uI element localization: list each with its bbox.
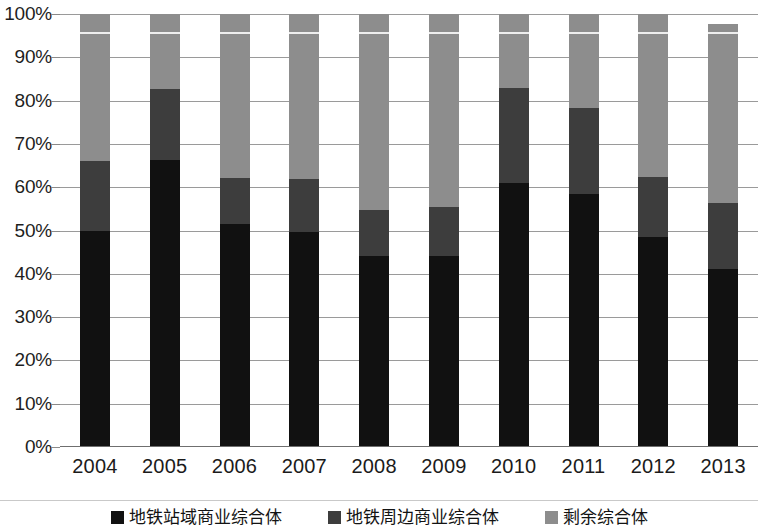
plot-area [60, 14, 758, 447]
y-tick-mark [51, 101, 60, 102]
bar-segment[interactable] [220, 178, 250, 224]
y-tick-label: 70% [0, 134, 52, 153]
bar-group[interactable] [220, 14, 250, 447]
y-tick-label: 20% [0, 350, 52, 369]
y-tick-mark [51, 57, 60, 58]
bar-segment[interactable] [708, 269, 738, 447]
y-tick-mark [51, 447, 60, 448]
x-tick-label: 2011 [544, 455, 624, 477]
bar-segment[interactable] [638, 177, 668, 237]
bar-segment[interactable] [80, 14, 110, 161]
legend-swatch-icon [328, 511, 341, 524]
bar-group[interactable] [638, 14, 668, 447]
bar-segment[interactable] [499, 183, 529, 447]
y-tick-label: 30% [0, 307, 52, 326]
bar-segment[interactable] [80, 231, 110, 448]
bar-segment[interactable] [569, 14, 599, 108]
x-tick-label: 2008 [334, 455, 414, 477]
y-tick-mark [51, 187, 60, 188]
bar-segment[interactable] [150, 160, 180, 447]
bar-segment[interactable] [499, 88, 529, 183]
x-tick-label: 2005 [125, 455, 205, 477]
legend-label: 地铁周边商业综合体 [346, 508, 499, 527]
x-tick-label: 2010 [474, 455, 554, 477]
y-tick-mark [51, 274, 60, 275]
legend-item[interactable]: 地铁周边商业综合体 [328, 508, 499, 527]
y-tick-mark [51, 14, 60, 15]
y-tick-label: 100% [0, 4, 52, 23]
x-tick-label: 2006 [195, 455, 275, 477]
legend-item[interactable]: 地铁站域商业综合体 [111, 508, 282, 527]
bar-segment[interactable] [289, 232, 319, 447]
bar-segment[interactable] [150, 89, 180, 160]
bar-segment[interactable] [359, 210, 389, 256]
y-tick-label: 50% [0, 221, 52, 240]
bar-segment[interactable] [359, 14, 389, 210]
bar-group[interactable] [150, 14, 180, 447]
x-tick-label: 2007 [264, 455, 344, 477]
y-tick-label: 60% [0, 177, 52, 196]
bar-segment[interactable] [638, 14, 668, 177]
bar-segment[interactable] [289, 14, 319, 179]
bar-group[interactable] [429, 14, 459, 447]
x-tick-label: 2012 [613, 455, 693, 477]
x-axis-line [60, 446, 758, 448]
chart-legend: 地铁站域商业综合体地铁周边商业综合体剩余综合体 [0, 500, 758, 530]
bar-segment[interactable] [638, 237, 668, 447]
y-tick-label: 90% [0, 47, 52, 66]
legend-label: 剩余综合体 [563, 508, 648, 527]
bar-segment[interactable] [80, 161, 110, 230]
x-tick-label: 2013 [683, 455, 758, 477]
y-tick-mark [51, 231, 60, 232]
x-tick-label: 2009 [404, 455, 484, 477]
bar-group[interactable] [569, 14, 599, 447]
bar-segment[interactable] [708, 24, 738, 203]
legend-item[interactable]: 剩余综合体 [545, 508, 648, 527]
bar-segment[interactable] [569, 108, 599, 194]
bar-segment[interactable] [429, 14, 459, 207]
bar-segment[interactable] [429, 256, 459, 447]
y-tick-label: 80% [0, 91, 52, 110]
y-tick-mark [51, 360, 60, 361]
y-tick-label: 0% [0, 437, 52, 456]
bar-segment[interactable] [708, 203, 738, 270]
bar-segment[interactable] [499, 14, 529, 88]
bar-segment[interactable] [289, 179, 319, 232]
y-tick-mark [51, 144, 60, 145]
y-tick-mark [51, 404, 60, 405]
bars-layer [60, 14, 758, 447]
bar-segment[interactable] [150, 14, 180, 89]
y-tick-label: 10% [0, 394, 52, 413]
legend-swatch-icon [545, 511, 558, 524]
bar-group[interactable] [289, 14, 319, 447]
legend-swatch-icon [111, 511, 124, 524]
bar-segment[interactable] [569, 194, 599, 447]
bar-segment[interactable] [359, 256, 389, 447]
bar-segment[interactable] [220, 224, 250, 447]
bar-group[interactable] [80, 14, 110, 447]
bar-group[interactable] [359, 14, 389, 447]
bar-segment[interactable] [220, 14, 250, 178]
y-tick-mark [51, 317, 60, 318]
x-tick-label: 2004 [55, 455, 135, 477]
bar-group[interactable] [499, 14, 529, 447]
bar-segment[interactable] [429, 207, 459, 256]
bar-group[interactable] [708, 14, 738, 447]
stacked-bar-chart: 0%10%20%30%40%50%60%70%80%90%100% 200420… [0, 0, 758, 530]
y-tick-label: 40% [0, 264, 52, 283]
legend-label: 地铁站域商业综合体 [129, 508, 282, 527]
